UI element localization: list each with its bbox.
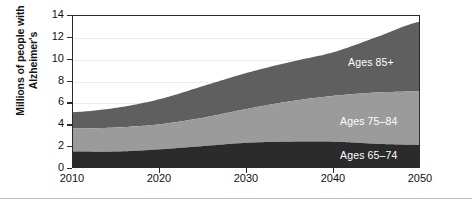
footer-divider	[0, 198, 472, 199]
y-tick-label: 8	[40, 74, 64, 86]
x-tick-label: 2030	[220, 172, 272, 184]
x-tick-label: 2040	[307, 172, 359, 184]
series-label-ages-85-plus: Ages 85+	[348, 56, 394, 68]
y-tick-label: 14	[40, 8, 64, 20]
y-tick-label: 10	[40, 52, 64, 64]
x-tick-label: 2020	[133, 172, 185, 184]
series-label-ages-75-84: Ages 75–84	[340, 115, 398, 127]
y-tick-mark	[67, 168, 72, 169]
y-tick-label: 2	[40, 139, 64, 151]
y-axis-title-line2: Alzheimer's	[26, 0, 39, 141]
x-tick-label: 2010	[46, 172, 98, 184]
alzheimers-projection-chart: Millions of people with Alzheimer's 0246…	[0, 0, 472, 206]
y-tick-label: 6	[40, 95, 64, 107]
x-tick-label: 2050	[394, 172, 446, 184]
y-tick-label: 4	[40, 117, 64, 129]
x-tick-mark	[333, 168, 334, 173]
y-axis-title-line1: Millions of people with	[14, 0, 27, 141]
y-axis-title: Millions of people with Alzheimer's	[14, 0, 39, 141]
series-label-ages-65-74: Ages 65–74	[340, 149, 398, 161]
stacked-area-series	[73, 16, 420, 168]
plot-area	[72, 15, 420, 168]
y-tick-label: 12	[40, 30, 64, 42]
x-tick-mark	[246, 168, 247, 173]
x-tick-mark	[159, 168, 160, 173]
